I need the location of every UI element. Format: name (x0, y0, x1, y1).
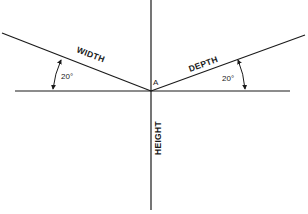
height-label: HEIGHT (153, 121, 163, 155)
width-axis (2, 33, 151, 91)
left-angle-arc (53, 60, 61, 89)
depth-label: DEPTH (187, 54, 219, 74)
axes-diagram: WIDTH DEPTH HEIGHT 20° 20° A (0, 0, 308, 214)
left-angle-label: 20° (61, 72, 73, 81)
right-angle-arc (238, 60, 245, 89)
origin-label: A (153, 78, 159, 87)
right-angle-label: 20° (222, 74, 234, 83)
width-label: WIDTH (75, 45, 106, 65)
